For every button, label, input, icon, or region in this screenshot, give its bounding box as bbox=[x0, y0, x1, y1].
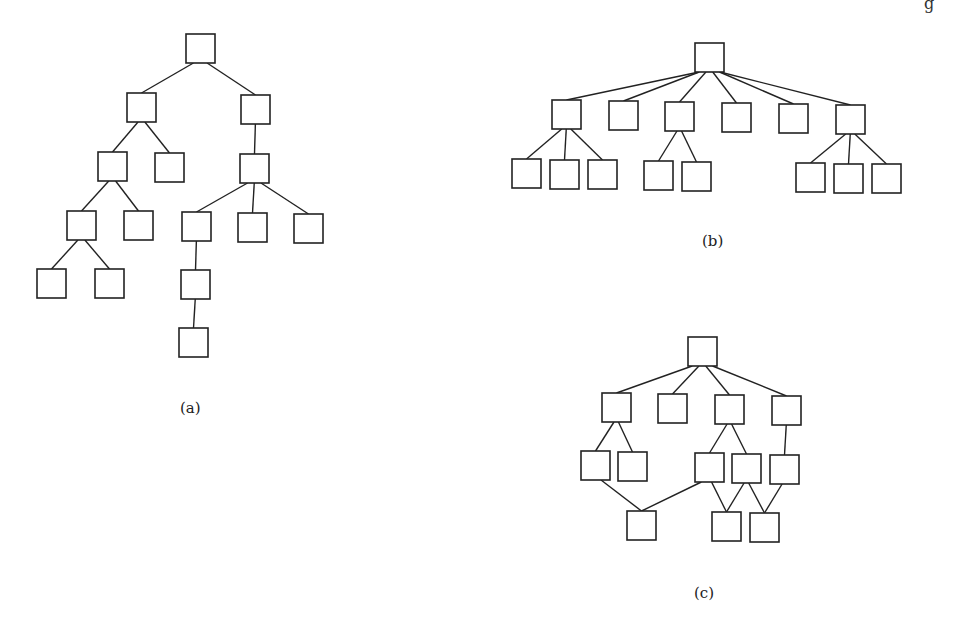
tree-node bbox=[779, 104, 808, 133]
tree-node bbox=[834, 164, 863, 193]
tree-node bbox=[238, 213, 267, 242]
tree-edge bbox=[765, 484, 783, 513]
tree-node bbox=[772, 396, 801, 425]
tree-node bbox=[618, 452, 647, 481]
tree-edge bbox=[207, 63, 255, 95]
tree-edge bbox=[680, 72, 706, 102]
tree-node bbox=[182, 212, 211, 241]
tree-node bbox=[644, 161, 673, 190]
tree-edge bbox=[659, 131, 677, 161]
tree-node bbox=[67, 211, 96, 240]
tree-edge bbox=[85, 240, 110, 269]
tree-edge bbox=[116, 181, 139, 211]
tree-node bbox=[732, 454, 761, 483]
tree-edge bbox=[527, 129, 562, 159]
tree-node bbox=[241, 95, 270, 124]
tree-edge bbox=[197, 183, 248, 212]
tree-node bbox=[588, 160, 617, 189]
tree-node bbox=[294, 214, 323, 243]
tree-node bbox=[750, 513, 779, 542]
tree-edge bbox=[113, 122, 139, 152]
tree-node bbox=[836, 105, 865, 134]
tree-node bbox=[124, 211, 153, 240]
tree-edge bbox=[255, 124, 256, 154]
tree-node bbox=[602, 393, 631, 422]
tree-node bbox=[872, 164, 901, 193]
tree-edge bbox=[749, 483, 765, 513]
tree-edge bbox=[596, 422, 614, 451]
tree-edge bbox=[713, 366, 787, 396]
tree-edge bbox=[785, 425, 787, 455]
tree-node bbox=[581, 451, 610, 480]
tree-node bbox=[240, 154, 269, 183]
tree-node bbox=[186, 34, 215, 63]
tree-edge bbox=[52, 240, 78, 269]
tree-diagram-c bbox=[581, 337, 801, 542]
tree-edge bbox=[565, 129, 567, 160]
tree-diagram-a bbox=[37, 34, 323, 357]
tree-node bbox=[95, 269, 124, 298]
tree-node bbox=[695, 43, 724, 72]
tree-node bbox=[609, 101, 638, 130]
tree-node bbox=[712, 512, 741, 541]
tree-node bbox=[682, 162, 711, 191]
tree-edge bbox=[710, 424, 728, 453]
tree-edge bbox=[855, 134, 887, 164]
tree-edge bbox=[732, 424, 747, 454]
tree-node bbox=[37, 269, 66, 298]
tree-node bbox=[155, 153, 184, 182]
tree-node bbox=[550, 160, 579, 189]
tree-edge bbox=[145, 122, 170, 153]
tree-edge bbox=[571, 129, 603, 160]
tree-edge bbox=[682, 131, 697, 162]
tree-diagram-b bbox=[512, 43, 901, 193]
tree-edge bbox=[567, 72, 700, 100]
tree-edge bbox=[253, 183, 255, 213]
tree-edge bbox=[811, 134, 846, 163]
tree-diagrams-canvas bbox=[0, 0, 953, 632]
tree-node bbox=[722, 103, 751, 132]
tree-node bbox=[665, 102, 694, 131]
tree-edge bbox=[624, 72, 700, 101]
tree-node bbox=[98, 152, 127, 181]
tree-edge bbox=[727, 483, 745, 512]
tree-edge bbox=[601, 480, 641, 511]
tree-node bbox=[552, 100, 581, 129]
tree-node bbox=[770, 455, 799, 484]
tree-edge bbox=[261, 183, 309, 214]
tree-node bbox=[512, 159, 541, 188]
tree-edge bbox=[617, 366, 693, 393]
tree-node bbox=[181, 270, 210, 299]
tree-edge bbox=[713, 72, 737, 103]
tree-node bbox=[179, 328, 208, 357]
tree-edge bbox=[673, 366, 699, 394]
tree-edge bbox=[712, 482, 727, 512]
tree-edge bbox=[849, 134, 851, 164]
tree-edge bbox=[706, 366, 730, 395]
tree-edge bbox=[142, 63, 194, 93]
tree-edge bbox=[82, 181, 109, 211]
tree-node bbox=[658, 394, 687, 423]
tree-node bbox=[715, 395, 744, 424]
tree-edge bbox=[642, 482, 702, 511]
figure-label-b: (b) bbox=[702, 232, 723, 250]
tree-node bbox=[695, 453, 724, 482]
figure-label-c: (c) bbox=[694, 584, 714, 602]
tree-node bbox=[688, 337, 717, 366]
figure-label-a: (a) bbox=[180, 399, 201, 417]
tree-edge bbox=[618, 422, 632, 452]
tree-node bbox=[627, 511, 656, 540]
tree-node bbox=[127, 93, 156, 122]
tree-edge bbox=[196, 241, 197, 270]
tree-node bbox=[796, 163, 825, 192]
tree-edge bbox=[194, 299, 196, 328]
